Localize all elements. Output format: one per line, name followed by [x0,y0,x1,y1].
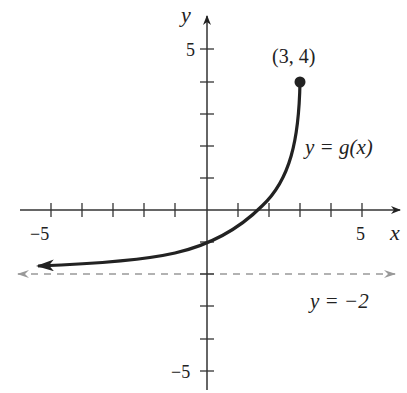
point-label: (3, 4) [272,45,315,68]
x-tick-label-5: 5 [356,224,365,244]
curve-label: y = g(x) [303,135,373,159]
y-axis [200,16,214,390]
x-tick-label-neg5: −5 [30,224,49,244]
asymptote-label: y = −2 [308,289,369,313]
y-axis-label: y [179,2,191,27]
curve-g [38,82,300,266]
y-tick-label-neg5: −5 [171,362,190,382]
graph: y x −5 5 5 −5 (3, 4) y = g(x) y = −2 [0,0,407,393]
endpoint-dot [295,77,306,88]
y-tick-label-5: 5 [186,40,195,60]
x-axis [20,203,400,217]
x-axis-label: x [389,220,400,245]
